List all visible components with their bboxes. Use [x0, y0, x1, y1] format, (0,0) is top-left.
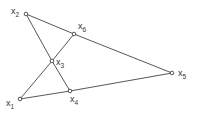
node-label: x6 — [78, 21, 87, 33]
node-marker-icon — [18, 97, 22, 101]
graph-canvas: x1x2x3x4x5x6 — [0, 0, 197, 116]
node-label: x1 — [6, 98, 15, 110]
node-x4: x4 — [68, 89, 78, 105]
node-marker-icon — [170, 71, 174, 75]
edge-x2-x6 — [26, 14, 74, 34]
edge-x4-x5 — [70, 73, 172, 91]
node-marker-icon — [24, 12, 28, 16]
node-x6: x6 — [72, 21, 86, 36]
node-label: x2 — [11, 6, 20, 18]
edge-x1-x4 — [20, 91, 70, 99]
node-label: x5 — [178, 68, 187, 80]
edges-group — [20, 14, 172, 99]
node-marker-icon — [72, 32, 76, 36]
node-x3: x3 — [50, 57, 64, 69]
edge-x6-x5 — [74, 34, 172, 73]
node-marker-icon — [68, 89, 72, 93]
node-x2: x2 — [11, 6, 28, 18]
node-marker-icon — [50, 59, 54, 63]
node-x1: x1 — [6, 97, 22, 109]
edge-x2-x3 — [26, 14, 52, 61]
node-x5: x5 — [170, 68, 186, 80]
nodes-group: x1x2x3x4x5x6 — [6, 6, 187, 110]
edge-x1-x3 — [20, 61, 52, 99]
node-label: x3 — [56, 57, 65, 69]
graph-diagram: x1x2x3x4x5x6 — [0, 0, 197, 116]
node-label: x4 — [70, 94, 79, 106]
